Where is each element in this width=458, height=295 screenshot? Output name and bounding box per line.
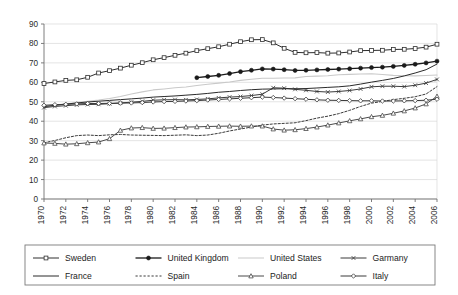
- marker-open-diamond: [293, 96, 297, 100]
- x-tick-label: 1970: [37, 206, 46, 225]
- series-spain: [44, 87, 437, 143]
- marker-open-triangle: [227, 124, 231, 128]
- marker-open-triangle: [129, 126, 133, 130]
- marker-filled-circle: [435, 59, 439, 63]
- marker-open-square: [271, 41, 275, 45]
- legend-item-united-states[interactable]: United States: [238, 253, 322, 263]
- y-tick-label: 0: [33, 195, 38, 204]
- legend-item-united-kingdom[interactable]: United Kingdom: [136, 253, 229, 263]
- legend-label: Garmany: [373, 253, 409, 263]
- marker-open-triangle: [162, 126, 166, 130]
- marker-open-diamond: [304, 97, 308, 101]
- marker-open-triangle: [413, 106, 417, 110]
- marker-open-square: [402, 47, 406, 51]
- legend-item-sweden[interactable]: Sweden: [33, 253, 96, 263]
- y-tick-label: 10: [29, 176, 39, 185]
- marker-open-triangle: [53, 141, 57, 145]
- x-axis-tick-labels: 1970197219741976197819801982198419861988…: [37, 206, 439, 225]
- x-tick-label: 1986: [212, 206, 221, 225]
- marker-open-square: [75, 78, 79, 82]
- x-tick-label: 2006: [430, 206, 439, 225]
- legend-item-spain[interactable]: Spain: [136, 271, 190, 281]
- marker-open-diamond: [271, 95, 275, 99]
- marker-open-square: [162, 56, 166, 60]
- marker-open-triangle: [238, 124, 242, 128]
- marker-open-square: [217, 45, 221, 49]
- marker-open-square: [86, 75, 90, 79]
- marker-open-triangle: [369, 114, 373, 118]
- legend-label: Italy: [373, 271, 389, 281]
- y-tick-label: 20: [29, 156, 39, 165]
- marker-filled-circle: [348, 67, 352, 71]
- marker-open-triangle: [42, 141, 46, 145]
- x-tick-label: 2000: [365, 206, 374, 225]
- legend-item-garmany[interactable]: Garmany: [341, 253, 409, 263]
- marker-open-square: [348, 50, 352, 54]
- marker-open-square: [424, 45, 428, 49]
- marker-filled-circle: [326, 68, 330, 72]
- series-line: [44, 40, 437, 84]
- marker-filled-circle: [413, 62, 417, 66]
- marker-open-square: [315, 51, 319, 55]
- y-axis-tick-labels: 0102030405060708090: [29, 20, 39, 204]
- marker-open-triangle: [195, 125, 199, 129]
- x-tick-label: 1974: [81, 206, 90, 225]
- marker-open-triangle: [402, 109, 406, 113]
- marker-open-square: [129, 63, 133, 67]
- marker-open-triangle: [358, 117, 362, 121]
- marker-open-square: [151, 58, 155, 62]
- x-tick-label: 1994: [299, 206, 308, 225]
- marker-open-square: [250, 38, 254, 42]
- marker-open-square: [228, 42, 232, 46]
- marker-filled-circle: [359, 66, 363, 70]
- marker-open-square: [304, 51, 308, 55]
- marker-filled-circle: [206, 75, 210, 79]
- legend-label: United Kingdom: [168, 253, 229, 263]
- legend-label: United States: [270, 253, 322, 263]
- marker-open-triangle: [118, 128, 122, 132]
- marker-filled-circle: [391, 64, 395, 68]
- legend-item-france[interactable]: France: [33, 271, 92, 281]
- marker-filled-circle: [260, 67, 264, 71]
- marker-open-diamond: [282, 96, 286, 100]
- marker-open-triangle: [64, 142, 68, 146]
- marker-open-triangle: [315, 125, 319, 129]
- marker-open-diamond: [358, 99, 362, 103]
- legend-item-italy[interactable]: Italy: [341, 271, 389, 281]
- marker-open-triangle: [391, 111, 395, 115]
- y-tick-label: 50: [29, 98, 39, 107]
- marker-filled-circle: [239, 70, 243, 74]
- marker-filled-circle: [402, 63, 406, 67]
- x-tick-label: 1976: [103, 206, 112, 225]
- x-tick-label: 1996: [321, 206, 330, 225]
- marker-open-square: [326, 51, 330, 55]
- x-tick-label: 2002: [386, 206, 395, 225]
- marker-filled-circle: [304, 68, 308, 72]
- marker-open-square: [337, 51, 341, 55]
- x-tick-label: 1992: [277, 206, 286, 225]
- marker-open-square: [97, 71, 101, 75]
- marker-open-triangle: [140, 125, 144, 129]
- marker-open-triangle: [380, 113, 384, 117]
- marker-filled-circle: [228, 72, 232, 76]
- marker-open-diamond: [402, 99, 406, 103]
- marker-open-triangle: [249, 274, 253, 278]
- marker-open-square: [206, 47, 210, 51]
- marker-open-diamond: [129, 101, 133, 105]
- marker-open-triangle: [347, 119, 351, 123]
- legend-item-poland[interactable]: Poland: [238, 271, 297, 281]
- marker-open-diamond: [413, 98, 417, 102]
- marker-open-square: [195, 49, 199, 53]
- marker-filled-circle: [370, 66, 374, 70]
- marker-filled-circle: [337, 67, 341, 71]
- marker-filled-circle: [249, 68, 253, 72]
- marker-open-square: [381, 48, 385, 52]
- marker-filled-circle: [147, 256, 151, 260]
- marker-open-triangle: [293, 127, 297, 131]
- y-tick-label: 80: [29, 39, 39, 48]
- marker-open-square: [413, 47, 417, 51]
- marker-open-triangle: [151, 126, 155, 130]
- marker-open-diamond: [347, 98, 351, 102]
- marker-filled-circle: [424, 61, 428, 65]
- marker-open-square: [370, 49, 374, 53]
